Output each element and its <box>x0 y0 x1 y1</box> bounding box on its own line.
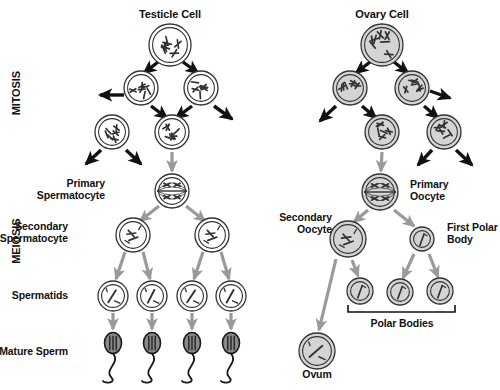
label-mature-sperm-line-1: Mature Sperm <box>0 346 68 358</box>
arrow-first-polar-to-polar-body-3 <box>429 254 438 277</box>
label-primary-spermatocyte-line-1: Primary <box>0 178 105 190</box>
label-secondary-spermatocyte-line-1: Secondary <box>0 221 68 233</box>
arrow-primary-oocyte-to-secondary <box>354 210 368 222</box>
heading-testicle-cell: Testicle Cell <box>100 8 240 20</box>
label-primary-spermatocyte: PrimarySpermatocyte <box>0 178 105 202</box>
ovary-cell <box>361 24 403 66</box>
spermatid-cell-4 <box>216 281 246 311</box>
sperm-layer <box>103 333 240 383</box>
secondary-spermatocyte-cell-left <box>116 218 150 252</box>
arrow-ov-r2-out-right <box>456 150 472 165</box>
label-secondary-oocyte: SecondaryOocyte <box>202 212 332 236</box>
arrow-sec-r-to-spermatid-4 <box>221 252 229 279</box>
stage-label-mitosis: MITOSIS <box>10 63 22 123</box>
bracket-layer <box>348 305 455 312</box>
label-primary-oocyte: PrimaryOocyte <box>410 179 500 203</box>
label-secondary-spermatocyte: SecondarySpermatocyte <box>0 221 68 245</box>
arrow-r1-out-right <box>214 106 232 119</box>
gametogenesis-diagram: MITOSIS MEIOSIS Testicle Cell Ovary Cell… <box>0 0 500 390</box>
secondary-oocyte-cell <box>330 221 366 257</box>
label-ovum-line-1: Ovum <box>247 369 387 381</box>
arrow-ov-r2-out-left <box>418 150 432 165</box>
arrow-l2-out-right <box>126 150 141 164</box>
label-primary-oocyte-line-2: Oocyte <box>410 191 500 203</box>
label-mature-sperm: Mature Sperm <box>0 346 68 358</box>
ovary-mitosis-cell-r1 <box>395 71 429 105</box>
label-primary-spermatocyte-line-2: Spermatocyte <box>0 190 105 202</box>
ovary-mitosis-cell-r2 <box>427 115 461 149</box>
ovary-mitosis-cell-l1 <box>333 71 367 105</box>
label-ovum: Ovum <box>247 369 387 381</box>
polar-body-cell-3 <box>427 278 453 304</box>
first-polar-body-cell <box>410 227 434 251</box>
polar-body-cell-2 <box>387 279 413 305</box>
label-first-polar-body-line-2: Body <box>447 234 500 246</box>
arrow-sec-r-to-spermatid-3 <box>194 252 203 279</box>
label-secondary-oocyte-line-2: Oocyte <box>202 224 332 236</box>
arrow-ov-l1-out-left <box>320 106 336 121</box>
ovum-cell <box>299 333 335 369</box>
ovary-mitosis-cell-l2 <box>365 115 399 149</box>
arrow-l2-out-left <box>86 150 101 164</box>
arrow-secondary-oocyte-to-polar-body-1 <box>352 260 358 276</box>
label-polar-bodies-line-1: Polar Bodies <box>332 318 472 330</box>
mature-sperm-4 <box>221 333 240 383</box>
label-spermatids: Spermatids <box>0 290 68 302</box>
primary-spermatocyte-cell <box>155 174 189 208</box>
arrow-ovary-to-r1 <box>394 62 408 73</box>
arrow-ov-l1-to-l2 <box>362 106 376 118</box>
label-primary-oocyte-line-1: Primary <box>410 179 500 191</box>
arrow-primary-to-secondary-left <box>140 206 159 221</box>
arrow-sec-l-to-spermatid-1 <box>116 252 125 279</box>
spermatid-cell-2 <box>137 281 167 311</box>
arrow-ov-r1-out-right <box>430 91 450 98</box>
arrow-ov-l2-to-primary-oocyte <box>381 152 382 171</box>
heading-ovary-cell: Ovary Cell <box>312 8 452 20</box>
mature-sperm-2 <box>142 333 161 383</box>
mitosis-cell-l2 <box>95 115 129 149</box>
arrow-ovary-to-l1 <box>356 62 370 73</box>
polar-body-cell-1 <box>347 278 373 304</box>
mitosis-cell-r1 <box>184 71 218 105</box>
spermatid-cell-1 <box>98 281 128 311</box>
arrow-first-polar-to-polar-body-2 <box>403 254 414 278</box>
mature-sperm-3 <box>182 333 201 383</box>
label-first-polar-body-line-1: First Polar <box>447 222 500 234</box>
label-polar-bodies: Polar Bodies <box>332 318 472 330</box>
testicle-cell <box>149 24 191 66</box>
arrow-ov-r1-to-r2 <box>424 106 438 118</box>
label-first-polar-body: First PolarBody <box>447 222 500 246</box>
mitosis-cell-l1 <box>124 71 158 105</box>
label-spermatids-line-1: Spermatids <box>0 290 68 302</box>
mitosis-cell-r2 <box>155 115 189 149</box>
arrow-primary-oocyte-to-first-polar-body <box>394 210 414 226</box>
mature-sperm-1 <box>103 333 122 383</box>
label-secondary-oocyte-line-1: Secondary <box>202 212 332 224</box>
polar-bodies-bracket <box>348 305 455 312</box>
arrow-sec-l-to-spermatid-2 <box>143 252 150 279</box>
primary-oocyte-cell <box>362 174 398 210</box>
label-secondary-spermatocyte-line-2: Spermatocyte <box>0 233 68 245</box>
spermatid-cell-3 <box>177 281 207 311</box>
